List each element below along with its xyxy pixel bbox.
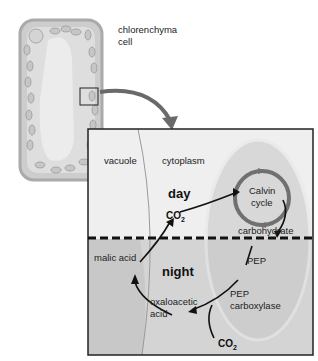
pep-carboxylase-line1: PEP bbox=[230, 288, 249, 299]
cytoplasm-label: cytoplasm bbox=[162, 155, 205, 166]
night-label: night bbox=[162, 266, 194, 277]
cell-label-line2: cell bbox=[118, 36, 132, 47]
oxaloacetic-label-line2: acid bbox=[150, 308, 167, 319]
co2-day-label: CO2 bbox=[166, 210, 185, 225]
cell-label-line1: chlorenchyma bbox=[118, 24, 177, 35]
zoom-arrow bbox=[100, 91, 170, 120]
oxaloacetic-label-line1: oxaloacetic bbox=[150, 296, 198, 307]
calvin-label-line1: Calvin bbox=[249, 185, 275, 196]
day-label: day bbox=[168, 188, 190, 199]
vacuole-label: vacuole bbox=[104, 155, 137, 166]
pep-carboxylase-line2: carboxylase bbox=[230, 300, 281, 311]
carbohydrate-label: carbohydrate bbox=[238, 225, 293, 236]
co2-night-label: CO2 bbox=[218, 338, 237, 353]
malic-acid-label: malic acid bbox=[94, 252, 136, 263]
pep-label: PEP bbox=[247, 255, 266, 266]
calvin-label-line2: cycle bbox=[251, 197, 273, 208]
